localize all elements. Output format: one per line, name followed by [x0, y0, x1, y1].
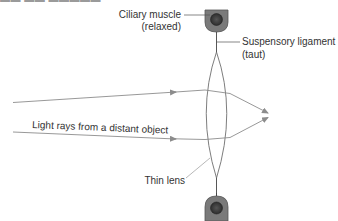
ciliary-muscle-label-2: (relaxed) — [142, 21, 181, 32]
suspensory-ligament-label-1: Suspensory ligament — [242, 36, 336, 47]
thin-lens-leader — [186, 158, 210, 178]
thin-lens-label: Thin lens — [144, 175, 185, 186]
suspensory-ligament-label-2: (taut) — [242, 49, 265, 60]
ciliary-muscle-bottom — [205, 196, 228, 221]
light-rays-label: Light rays from a distant object — [32, 119, 169, 135]
ciliary-muscle-label-1: Ciliary muscle — [119, 9, 182, 20]
ciliary-muscle-top — [205, 10, 228, 32]
eye-lens-diagram: Ciliary muscle (relaxed) Suspensory liga… — [0, 0, 338, 221]
thin-lens — [206, 52, 227, 178]
